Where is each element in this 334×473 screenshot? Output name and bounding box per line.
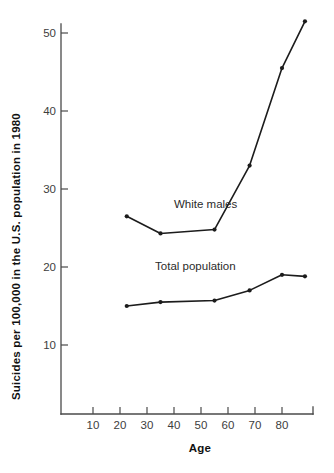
y-tick-label: 40 — [43, 105, 56, 117]
x-axis-ticks: 1020304050607080 — [87, 407, 289, 431]
data-point — [248, 288, 252, 292]
x-tick-label: 80 — [276, 419, 289, 431]
y-axis-title: Suicides per 100,000 in the U.S. populat… — [10, 113, 22, 400]
x-tick-label: 10 — [87, 419, 100, 431]
data-point — [303, 19, 307, 23]
series-annotations: White malesTotal population — [155, 198, 237, 272]
data-point — [158, 231, 162, 235]
x-axis-title-text: Age — [189, 442, 211, 454]
data-point — [280, 273, 284, 277]
x-tick-label: 50 — [195, 419, 208, 431]
data-point — [212, 227, 216, 231]
data-point — [125, 214, 129, 218]
chart-canvas: Suicides per 100,000 in the U.S. populat… — [0, 0, 334, 473]
data-point — [125, 304, 129, 308]
series-label-total-population: Total population — [155, 260, 236, 272]
y-tick-label: 20 — [43, 261, 56, 273]
x-tick-label: 30 — [141, 419, 154, 431]
y-axis-title-text: Suicides per 100,000 in the U.S. populat… — [10, 113, 22, 400]
x-tick-label: 60 — [222, 419, 235, 431]
x-tick-label: 20 — [114, 419, 127, 431]
data-point — [303, 274, 307, 278]
y-tick-label: 50 — [43, 27, 56, 39]
data-point — [248, 164, 252, 168]
series-label-white-males: White males — [174, 198, 238, 210]
data-point — [158, 300, 162, 304]
y-tick-label: 10 — [43, 339, 56, 351]
x-tick-label: 70 — [249, 419, 262, 431]
y-axis-ticks: 1020304050 — [43, 27, 68, 351]
x-tick-label: 40 — [168, 419, 181, 431]
data-point — [280, 66, 284, 70]
data-point — [212, 298, 216, 302]
suicide-rate-line-chart: Suicides per 100,000 in the U.S. populat… — [0, 0, 334, 473]
y-tick-label: 30 — [43, 183, 56, 195]
